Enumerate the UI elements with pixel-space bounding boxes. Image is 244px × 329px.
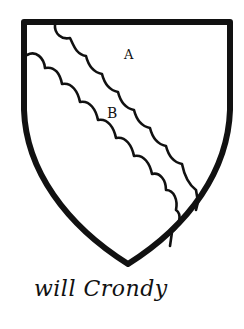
field-label-a: A [124,48,133,61]
shield-drawing: A B will Crondy [0,0,244,329]
signature-caption: will Crondy [34,276,214,301]
bend-label-b: B [107,106,117,120]
bend-lower-line [27,53,179,246]
